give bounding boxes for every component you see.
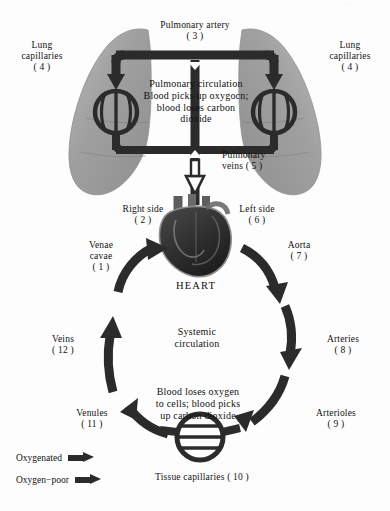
pulmonary-circulation-text: Pulmonary circulation Blood picks up oxy… — [122, 78, 270, 125]
legend-label-oxygenated: Oxygenated — [16, 453, 62, 463]
right-side-heart-label: Right side ( 2 ) — [108, 204, 178, 226]
scan-mark-top-right: ··· — [344, 2, 349, 7]
legend-item-oxygenated: Oxygenated — [16, 452, 94, 463]
legend-label-oxygen-poor: Oxygen−poor — [16, 475, 69, 485]
systemic-circulation-title: Systemic circulation — [150, 326, 244, 350]
diagram-canvas — [0, 0, 390, 511]
left-side-heart-label: Left side ( 6 ) — [224, 204, 290, 226]
scan-mark-bottom-center: · — [194, 494, 196, 499]
veins-arrow — [100, 316, 122, 392]
venules-label: Venules ( 11 ) — [62, 408, 122, 430]
arteries-arrow — [280, 306, 302, 370]
pulmonary-vein-arrow — [186, 176, 204, 194]
pulmonary-veins-label: Pulmonary veins ( 5 ) — [222, 150, 306, 172]
aorta-label: Aorta ( 7 ) — [270, 240, 328, 262]
lung-capillaries-right-label: Lung capillaries ( 4 ) — [312, 40, 388, 74]
legend-item-oxygen-poor: Oxygen−poor — [16, 474, 101, 485]
tissue-capillaries-label: Tissue capillaries ( 10 ) — [132, 472, 272, 483]
pulmonary-artery-label: Pulmonary artery ( 3 ) — [130, 20, 260, 42]
systemic-circulation-text: Blood loses oxygen to cells; blood picks… — [130, 386, 266, 421]
arteries-label: Arteries ( 8 ) — [308, 334, 378, 356]
arrow-right-icon — [68, 452, 94, 463]
veins-label: Veins ( 12 ) — [34, 334, 92, 356]
arterioles-label: Arterioles ( 9 ) — [298, 408, 374, 430]
heart-label: HEART — [156, 280, 236, 291]
circulatory-system-diagram: Pulmonary artery ( 3 ) Lung capillaries … — [0, 0, 390, 511]
lung-capillaries-left-label: Lung capillaries ( 4 ) — [4, 40, 80, 74]
venae-cavae-label: Venae cavae ( 1 ) — [70, 240, 132, 274]
arrow-right-icon — [75, 474, 101, 485]
